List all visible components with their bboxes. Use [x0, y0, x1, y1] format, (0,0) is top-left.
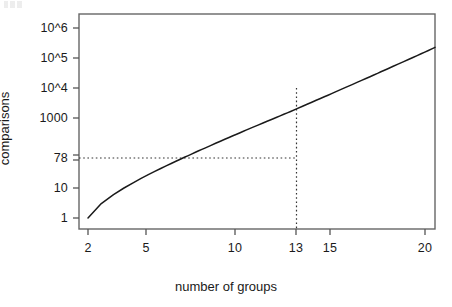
y-tick-label-78: 78 — [22, 151, 68, 165]
x-tick-label-13: 13 — [289, 241, 303, 255]
chart-figure: 10^6 10^5 10^4 1000 78 10 1 2 5 10 13 15… — [0, 0, 452, 307]
x-tick-label-5: 5 — [142, 241, 149, 255]
y-axis-title: comparisons — [0, 92, 12, 166]
y-axis-ticks — [73, 28, 79, 218]
x-axis-title: number of groups — [0, 279, 452, 294]
x-tick-label-20: 20 — [418, 241, 432, 255]
x-tick-label-10: 10 — [228, 241, 242, 255]
y-tick-label-10e5: 10^5 — [22, 51, 68, 65]
x-tick-label-15: 15 — [323, 241, 337, 255]
y-tick-label-1000: 1000 — [22, 111, 68, 125]
y-tick-label-10: 10 — [22, 181, 68, 195]
x-axis-ticks — [88, 229, 425, 235]
comparisons-curve — [88, 47, 435, 218]
x-tick-label-2: 2 — [84, 241, 91, 255]
y-tick-label-1: 1 — [22, 211, 68, 225]
y-tick-label-10e6: 10^6 — [22, 21, 68, 35]
plot-frame — [79, 14, 435, 229]
y-tick-label-10e4: 10^4 — [22, 81, 68, 95]
